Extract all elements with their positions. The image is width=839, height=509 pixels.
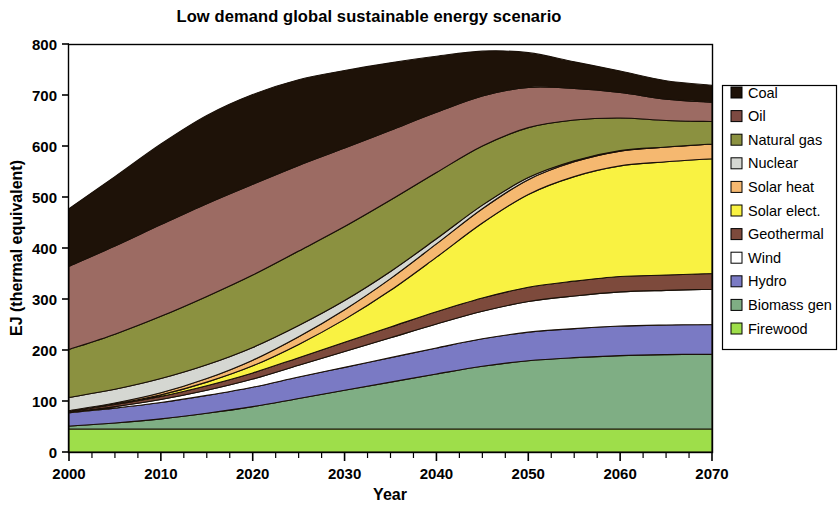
y-tick-label: 200 — [32, 342, 57, 359]
chart-container: Low demand global sustainable energy sce… — [0, 0, 839, 509]
y-tick-label: 0 — [49, 444, 57, 461]
x-tick-label: 2050 — [512, 465, 545, 482]
chart-legend: CoalOilNatural gasNuclearSolar heatSolar… — [723, 85, 837, 350]
legend-swatch-natural-gas — [731, 134, 742, 145]
legend-swatch-oil — [731, 111, 742, 122]
y-tick-label: 800 — [32, 36, 57, 53]
legend-label-solar-elect: Solar elect. — [748, 203, 821, 219]
x-tick-label: 2070 — [695, 465, 728, 482]
x-tick-label: 2060 — [603, 465, 636, 482]
legend-label-hydro: Hydro — [748, 273, 787, 289]
page-title: Low demand global sustainable energy sce… — [176, 7, 561, 25]
legend-swatch-firewood — [731, 323, 742, 334]
legend-swatch-wind — [731, 252, 742, 263]
legend-label-biomass-gen: Biomass gen — [748, 297, 832, 313]
y-axis-label: EJ (thermal equivalent) — [8, 160, 25, 336]
legend-item-firewood[interactable]: Firewood — [731, 321, 808, 337]
legend-label-solar-heat: Solar heat — [748, 179, 814, 195]
legend-item-oil[interactable]: Oil — [731, 108, 766, 124]
legend-label-coal: Coal — [748, 85, 778, 101]
y-tick-label: 100 — [32, 393, 57, 410]
x-tick-label: 2000 — [52, 465, 85, 482]
area-band-firewood — [69, 429, 712, 452]
x-tick-label: 2040 — [420, 465, 453, 482]
legend-item-hydro[interactable]: Hydro — [731, 273, 787, 289]
legend-label-wind: Wind — [748, 250, 781, 266]
legend-swatch-biomass-gen — [731, 299, 742, 310]
y-tick-label: 500 — [32, 189, 57, 206]
legend-label-nuclear: Nuclear — [748, 155, 798, 171]
legend-label-firewood: Firewood — [748, 321, 808, 337]
legend-swatch-nuclear — [731, 158, 742, 169]
legend-label-natural-gas: Natural gas — [748, 132, 822, 148]
legend-label-oil: Oil — [748, 108, 766, 124]
x-axis-label: Year — [373, 486, 407, 503]
legend-swatch-solar-elect — [731, 205, 742, 216]
stacked-area-chart: Low demand global sustainable energy sce… — [0, 0, 839, 509]
legend-item-coal[interactable]: Coal — [731, 85, 778, 101]
x-tick-label: 2030 — [328, 465, 361, 482]
legend-swatch-hydro — [731, 276, 742, 287]
y-tick-label: 600 — [32, 138, 57, 155]
legend-item-wind[interactable]: Wind — [731, 250, 781, 266]
y-tick-label: 300 — [32, 291, 57, 308]
y-tick-label: 700 — [32, 87, 57, 104]
legend-swatch-geothermal — [731, 229, 742, 240]
legend-swatch-solar-heat — [731, 181, 742, 192]
y-tick-label: 400 — [32, 240, 57, 257]
x-tick-label: 2010 — [144, 465, 177, 482]
x-tick-label: 2020 — [236, 465, 269, 482]
legend-swatch-coal — [731, 87, 742, 98]
legend-label-geothermal: Geothermal — [748, 226, 824, 242]
legend-item-nuclear[interactable]: Nuclear — [731, 155, 798, 171]
